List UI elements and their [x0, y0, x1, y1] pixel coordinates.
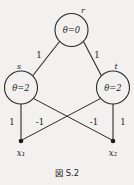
node-r-name: r: [81, 6, 86, 15]
edge-weight-t-x1: -1: [90, 117, 98, 127]
edge-s-x2: [34, 99, 113, 141]
node-t-value: θ=2: [104, 83, 121, 93]
edge-weight-s-x1: 1: [9, 117, 14, 127]
terminal-x2-label: x₂: [109, 148, 118, 158]
edge-weight-r-s: 1: [36, 50, 41, 60]
graph-diagram: θ=0 θ=2 θ=2 r s t 1 1 1 -1 -1 1 x₁ x₂ 図 …: [0, 0, 134, 185]
edge-weight-s-x2: -1: [36, 117, 44, 127]
node-s-name: s: [17, 62, 21, 71]
node-t-name: t: [114, 62, 118, 71]
edge-t-x1: [22, 99, 101, 141]
figure-container: θ=0 θ=2 θ=2 r s t 1 1 1 -1 -1 1 x₁ x₂ 図 …: [0, 0, 134, 185]
terminal-x2-dot[interactable]: [111, 139, 116, 144]
edge-weight-r-t: 1: [94, 50, 99, 60]
node-r-value: θ=0: [63, 25, 81, 35]
edge-weight-t-x2: 1: [120, 117, 125, 127]
terminal-x1-dot[interactable]: [19, 139, 24, 144]
terminal-x1-label: x₁: [17, 148, 25, 158]
figure-caption: 図 S.2: [55, 168, 79, 178]
node-s-value: θ=2: [12, 83, 29, 93]
